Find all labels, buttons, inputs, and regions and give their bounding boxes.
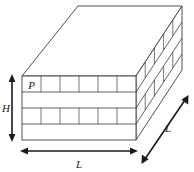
width-arrow-head-left — [20, 148, 28, 155]
cell-label-p: P — [27, 79, 35, 91]
height-arrow: H — [1, 74, 15, 142]
figure-root: P H L L — [0, 0, 194, 172]
height-arrow-head-top — [9, 74, 16, 82]
width-label: L — [75, 158, 82, 170]
height-label: H — [1, 102, 11, 114]
width-arrow: L — [20, 148, 138, 170]
height-arrow-head-bottom — [9, 134, 16, 142]
front-face: P — [22, 76, 136, 140]
width-arrow-head-right — [130, 148, 138, 155]
layered-block-diagram: P H L L — [0, 0, 194, 172]
depth-label: L — [164, 122, 171, 134]
